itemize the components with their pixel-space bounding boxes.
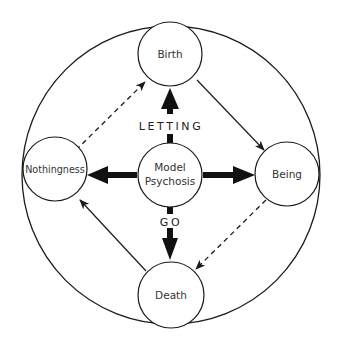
flow-label-letting: LETTING	[139, 120, 204, 133]
node-being: Being	[255, 142, 319, 206]
bold-arrow-up	[161, 88, 179, 143]
diagram-canvas: Birth Being Death Nothingness Model Psyc…	[0, 0, 337, 343]
flow-label-go: GO	[160, 216, 182, 229]
cycle-diagram: Birth Being Death Nothingness Model Psyc…	[0, 0, 337, 343]
edge-being-to-death	[196, 200, 266, 269]
bold-arrow-down	[162, 207, 178, 260]
node-death-label: Death	[155, 289, 187, 301]
node-center-label-line1: Model	[154, 161, 186, 173]
node-model-psychosis: Model Psychosis	[138, 143, 202, 207]
node-being-label: Being	[272, 168, 302, 180]
bold-arrow-right	[203, 166, 255, 184]
node-center-label-line2: Psychosis	[145, 175, 196, 187]
node-nothingness: Nothingness	[23, 137, 87, 201]
edge-death-to-nothingness	[80, 200, 146, 271]
node-birth: Birth	[138, 22, 202, 86]
edge-birth-to-being	[197, 80, 264, 150]
node-nothingness-label: Nothingness	[25, 164, 85, 175]
edge-nothingness-to-birth	[76, 82, 145, 150]
node-birth-label: Birth	[157, 48, 182, 60]
bold-arrow-left	[87, 166, 137, 184]
node-death: Death	[138, 262, 204, 328]
